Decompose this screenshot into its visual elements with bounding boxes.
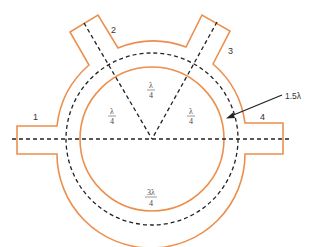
svg-text:λ: λ: [149, 81, 153, 90]
svg-text:4: 4: [110, 117, 114, 126]
svg-text:4: 4: [189, 117, 193, 126]
svg-text:3λ: 3λ: [147, 188, 155, 197]
port-3-axis: [152, 22, 217, 139]
outer-ring-outline: [17, 15, 283, 247]
svg-text:4: 4: [149, 91, 153, 100]
segment-1-2-fraction: λ 4: [108, 107, 116, 126]
svg-text:4: 4: [149, 199, 153, 208]
svg-text:λ: λ: [110, 107, 114, 116]
hybrid-ring-diagram: 1.5λ 1 2 3 4 λ 4 λ 4 λ 4 3λ 4: [0, 0, 310, 247]
port-4-label: 4: [260, 112, 265, 122]
port-2-axis: [84, 23, 152, 139]
callout-label: 1.5λ: [285, 91, 302, 101]
port-3-label: 3: [228, 46, 233, 56]
segment-4-1-fraction: 3λ 4: [145, 188, 157, 208]
segment-2-3-fraction: λ 4: [147, 81, 155, 100]
port-2-label: 2: [111, 25, 116, 35]
svg-text:λ: λ: [189, 107, 193, 116]
port-1-label: 1: [33, 112, 38, 122]
segment-3-4-fraction: λ 4: [187, 107, 195, 126]
